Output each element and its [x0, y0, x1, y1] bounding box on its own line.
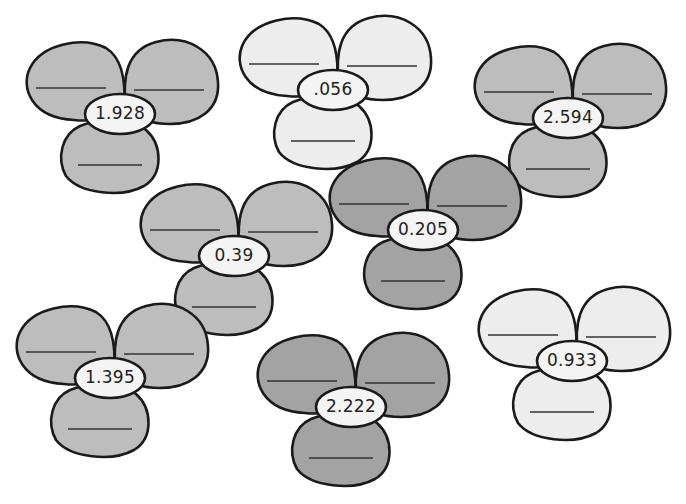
center-value: 2.222 [311, 396, 391, 416]
center-value: 0.933 [532, 350, 612, 370]
flower-7: 2.222 [253, 331, 463, 504]
center-value: 2.594 [528, 107, 608, 127]
center-value: .056 [293, 79, 373, 99]
flower-8: 0.933 [474, 285, 684, 475]
center-value: 0.39 [194, 245, 274, 265]
flower-6: 1.395 [12, 302, 222, 492]
center-value: 0.205 [383, 219, 463, 239]
center-value: 1.928 [80, 103, 160, 123]
center-value: 1.395 [70, 367, 150, 387]
